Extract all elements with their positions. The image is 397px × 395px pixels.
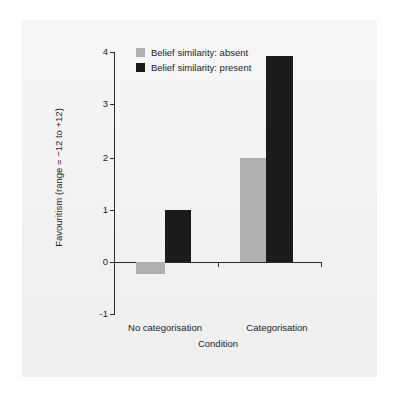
bar-chart-plot: 4 3 2 1 0 -1 Favouritism (range = −12 [0,0,397,395]
legend-swatch-present-icon [136,63,145,72]
y-tick-label-3: 3 [86,99,108,109]
y-tick-label-0: 0 [86,257,108,267]
legend-label-absent: Belief similarity: absent [151,47,248,58]
x-axis-group-label-no-categorisation: No categorisation [110,322,220,333]
y-tick-mark-0 [110,262,114,263]
y-tick-mark-2 [110,158,114,159]
bar-categorisation-absent [240,158,266,262]
figure-container: 4 3 2 1 0 -1 Favouritism (range = −12 [0,0,397,395]
y-tick-mark-1 [110,210,114,211]
bar-no-categorisation-absent [136,262,165,274]
legend-item-present: Belief similarity: present [136,60,251,75]
x-axis-group-label-categorisation: Categorisation [222,322,332,333]
x-tick-mark-center [218,263,219,267]
chart-legend: Belief similarity: absent Belief similar… [136,45,251,75]
y-tick-label-4: 4 [86,47,108,57]
y-tick-mark-minus1 [110,314,114,315]
y-tick-mark-4 [110,52,114,53]
legend-label-present: Belief similarity: present [151,62,251,73]
bar-no-categorisation-present [165,210,191,262]
legend-item-absent: Belief similarity: absent [136,45,251,60]
legend-swatch-absent-icon [136,48,145,57]
y-tick-label-2: 2 [86,153,108,163]
x-axis-title: Condition [114,338,322,349]
y-tick-mark-3 [110,104,114,105]
y-axis-title: Favouritism (range = −12 to +12) [53,93,64,263]
y-axis-line [114,52,115,315]
bar-categorisation-present [266,56,293,262]
x-tick-mark-right [321,263,322,267]
y-tick-label-minus1: -1 [86,309,108,319]
y-tick-label-1: 1 [86,205,108,215]
